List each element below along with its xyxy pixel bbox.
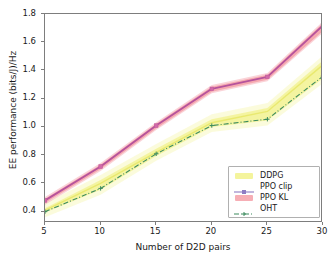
x-tick-label: 5	[29, 227, 59, 236]
x-tick-label: 20	[196, 227, 226, 236]
legend-label: PPO KL	[260, 193, 288, 203]
x-tick-label: 25	[251, 227, 281, 236]
legend-label: OHT	[260, 204, 277, 214]
legend-item-oht[interactable]: OHT	[232, 203, 315, 214]
x-tick-mark	[322, 222, 323, 225]
x-tick-label: 15	[140, 227, 170, 236]
x-axis-label: Number of D2D pairs	[44, 242, 322, 252]
x-tick-mark	[155, 222, 156, 225]
legend-key-icon	[232, 182, 256, 192]
x-tick-mark	[44, 222, 45, 225]
legend-label: PPO clip	[260, 182, 292, 192]
x-tick-mark	[266, 222, 267, 225]
chart-figure: 0.40.60.81.01.21.41.61.8 51015202530 Num…	[0, 0, 336, 262]
legend-key-icon	[232, 193, 256, 203]
legend-item-ppo-kl[interactable]: PPO KL	[232, 192, 315, 203]
x-tick-label: 10	[85, 227, 115, 236]
x-tick-mark	[211, 222, 212, 225]
legend-key-icon	[232, 204, 256, 214]
x-tick-label: 30	[307, 227, 336, 236]
legend-label: DDPG	[260, 171, 283, 181]
legend-item-ddpg[interactable]: DDPG	[232, 170, 315, 181]
x-tick-mark	[100, 222, 101, 225]
legend-key-icon	[232, 171, 256, 181]
y-axis-label: EE performance (bits/J)/Hz	[8, 10, 18, 210]
chart-legend: DDPGPPO clipPPO KLOHT	[228, 166, 320, 218]
legend-item-ppo-clip[interactable]: PPO clip	[232, 181, 315, 192]
